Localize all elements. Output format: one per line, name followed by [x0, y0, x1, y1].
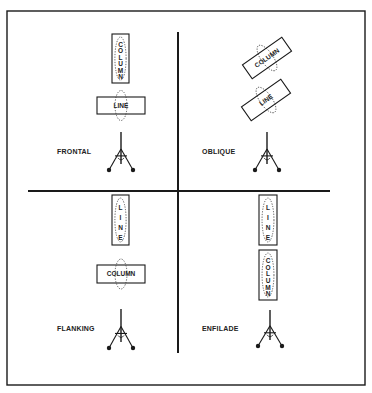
formation-text-char: E — [118, 234, 123, 241]
quadrant-frontal: FRONTALCOLUMNLINE — [57, 34, 145, 172]
quadrant-label-enfilade: ENFILADE — [202, 325, 239, 332]
quadrant-enfilade: ENFILADELINECOLUMN — [202, 195, 284, 348]
formation-text-char: L — [266, 204, 270, 211]
quadrant-label-flanking: FLANKING — [57, 325, 95, 332]
formation-text-char: I — [267, 214, 269, 221]
formation-text-char: N — [118, 224, 123, 231]
formation-column: COLUMN — [112, 34, 129, 83]
formation-line: LINE — [259, 195, 277, 245]
quadrant-label-oblique: OBLIQUE — [202, 148, 235, 156]
machine-gun-tripod-icon — [107, 309, 135, 350]
fires-diagram: FRONTALCOLUMNLINEOBLIQUECOLUMNLINEFLANKI… — [0, 0, 372, 393]
formation-text-char: I — [120, 214, 122, 221]
formation-text-char: N — [266, 290, 271, 297]
formation-column: COLUMN — [259, 250, 277, 300]
formation-text: LINE — [114, 102, 129, 109]
machine-gun-tripod-icon — [107, 132, 135, 172]
quadrant-label-frontal: FRONTAL — [57, 148, 92, 155]
quadrant-oblique: OBLIQUECOLUMNLINE — [202, 32, 295, 172]
formation-column: COLUMN — [239, 32, 296, 84]
formation-column: COLUMN — [97, 259, 145, 289]
formation-text-char: L — [119, 204, 123, 211]
formation-text: COLUMN — [107, 270, 136, 277]
machine-gun-tripod-icon — [253, 132, 281, 172]
formation-line: LINE — [112, 195, 129, 245]
formation-text-char: E — [266, 234, 271, 241]
machine-gun-tripod-icon — [256, 310, 284, 348]
formation-line: LINE — [238, 74, 295, 126]
formation-text-char: N — [266, 224, 271, 231]
quadrant-flanking: FLANKINGLINECOLUMN — [57, 195, 145, 350]
formation-text-char: N — [118, 73, 123, 80]
formation-line: LINE — [97, 91, 145, 121]
